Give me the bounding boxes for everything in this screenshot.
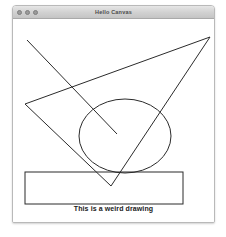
screen: Hello Canvas This is a weird drawing [0,0,226,237]
window-title: Hello Canvas [13,6,214,18]
app-window: Hello Canvas This is a weird drawing [12,5,215,223]
canvas-caption: This is a weird drawing [13,205,214,212]
window-titlebar[interactable]: Hello Canvas [13,6,214,19]
drawing-canvas[interactable]: This is a weird drawing [13,19,214,223]
rectangle-shape [25,172,183,204]
canvas-svg [13,19,214,223]
diagonal-line-shape [27,40,117,134]
ellipse-shape [79,99,171,173]
triangle-shape [25,37,210,186]
